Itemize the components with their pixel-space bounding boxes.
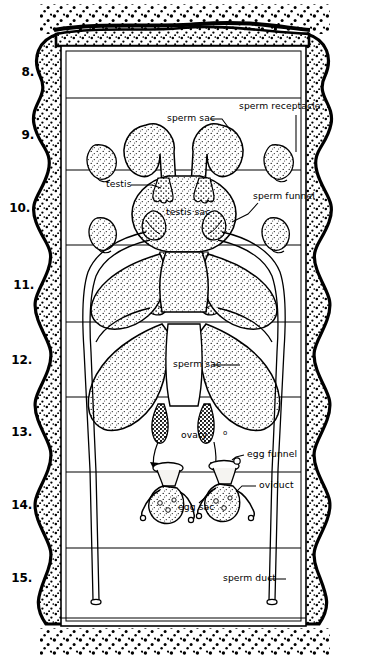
label-sperm-sac-lower: sperm sac: [173, 358, 221, 369]
segment-number: 13.: [6, 425, 32, 439]
anatomical-figure: 8. 9. 10. 11. 12. 13. 14. 15. sperm sac …: [0, 0, 365, 659]
label-sperm-duct: sperm duct: [223, 572, 276, 583]
diagram-canvas: [0, 0, 365, 659]
label-testis-sac: testis sac: [166, 206, 210, 217]
segment-number: 10.: [4, 201, 30, 215]
label-sperm-receptacle: sperm receptacle: [239, 100, 321, 111]
label-egg-sac: egg sac: [178, 501, 214, 512]
label-oviduct: oviduct: [259, 479, 294, 490]
segment-number: 11.: [8, 278, 34, 292]
segment-number: 12.: [6, 353, 32, 367]
label-egg-funnel: egg funnel: [247, 448, 297, 459]
label-ovary: ovary: [181, 429, 207, 440]
label-testis: testis: [106, 178, 132, 189]
label-sperm-sac-upper: sperm sac: [167, 112, 215, 123]
segment-number: 15.: [6, 571, 32, 585]
segment-number: 14.: [6, 498, 32, 512]
segment-number: 8.: [8, 65, 34, 79]
soil-stipple-bottom: [40, 628, 330, 656]
segment-number: 9.: [8, 128, 34, 142]
ovum-marker: o: [223, 429, 227, 437]
label-sperm-funnel: sperm funnel: [253, 190, 315, 201]
